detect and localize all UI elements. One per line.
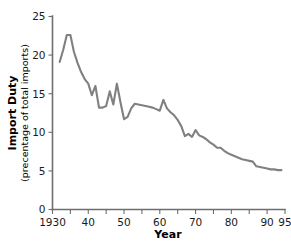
x-tick-label: 80 [225,216,238,228]
y-tick-label: 15 [32,88,45,100]
x-tick-label: 50 [117,216,130,228]
x-tick-label: 95 [278,216,291,228]
x-axis-title: Year [153,228,182,241]
x-tick-label: 40 [82,216,95,228]
y-tick-label: 0 [39,203,46,215]
y-tick-label: 25 [32,10,45,22]
x-tick-label: 70 [189,216,202,228]
import-duty-line-chart: 0510152025 193040506070809095 Year Impor… [0,0,291,244]
chart-figure: 0510152025 193040506070809095 Year Impor… [0,0,291,244]
y-tick-label: 20 [32,49,45,61]
x-tick-label: 60 [153,216,166,228]
y-axis-subtitle: (precentage of total imports) [19,44,30,182]
y-tick-label: 10 [32,126,45,138]
x-tick-label: 90 [260,216,273,228]
x-tick-label: 1930 [39,216,66,228]
y-tick-label: 5 [39,165,46,177]
y-axis-title: Import Duty [6,76,19,151]
